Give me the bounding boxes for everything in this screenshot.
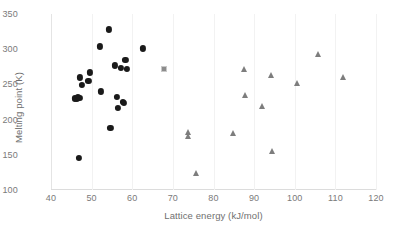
- gridline-vertical: [173, 14, 174, 190]
- gridline-vertical: [132, 14, 133, 190]
- data-point-triangle: [268, 72, 274, 78]
- x-axis-tick-label: 100: [275, 194, 315, 203]
- data-point-circle: [77, 74, 83, 80]
- data-point-triangle: [269, 148, 275, 154]
- x-axis-tick-label: 80: [194, 194, 234, 203]
- data-point-circle: [76, 155, 82, 161]
- data-point-triangle: [315, 51, 321, 57]
- data-point-triangle: [193, 170, 199, 176]
- x-axis-tick-label: 50: [72, 194, 112, 203]
- data-point-circle: [107, 125, 113, 131]
- data-point-square: [161, 66, 167, 72]
- x-axis-tick-label: 110: [315, 194, 355, 203]
- data-point-circle: [76, 95, 82, 101]
- x-axis-tick-label: 60: [112, 194, 152, 203]
- data-point-circle: [123, 66, 129, 72]
- plot-area: [51, 14, 376, 190]
- y-axis-tick-label: 100: [0, 186, 18, 195]
- data-point-circle: [85, 78, 91, 84]
- x-axis-tick-label: 70: [153, 194, 193, 203]
- data-point-triangle: [294, 80, 300, 86]
- gridline-vertical: [92, 14, 93, 190]
- data-point-circle: [121, 100, 127, 106]
- data-point-triangle: [340, 74, 346, 80]
- gridline-vertical: [214, 14, 215, 190]
- gridline-vertical: [295, 14, 296, 190]
- data-point-circle: [97, 43, 103, 49]
- x-axis-title: Lattice energy (kJ/mol): [51, 210, 376, 221]
- gridline-vertical: [376, 14, 377, 190]
- x-axis-tick-label: 90: [234, 194, 274, 203]
- data-point-circle: [122, 57, 128, 63]
- y-axis-tick-label: 350: [0, 10, 18, 19]
- gridline-vertical: [335, 14, 336, 190]
- data-point-circle: [79, 82, 85, 88]
- data-point-circle: [106, 26, 112, 32]
- data-point-triangle: [230, 130, 236, 136]
- gridline-vertical: [254, 14, 255, 190]
- data-point-triangle: [242, 92, 248, 98]
- x-axis-tick-label: 40: [31, 194, 71, 203]
- scatter-chart: 100150200250300350 405060708090100110120…: [0, 0, 399, 234]
- data-point-triangle: [185, 133, 191, 139]
- data-point-triangle: [259, 103, 265, 109]
- x-axis-tick-label: 120: [356, 194, 396, 203]
- y-axis-title: Melting point (K): [13, 38, 24, 178]
- y-axis-line: [51, 14, 52, 190]
- data-point-circle: [97, 88, 103, 94]
- data-point-circle: [140, 45, 146, 51]
- data-point-circle: [115, 105, 121, 111]
- data-point-triangle: [241, 66, 247, 72]
